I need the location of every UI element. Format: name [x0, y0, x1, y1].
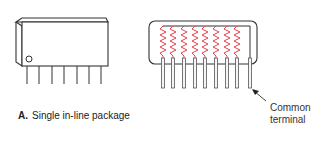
- resistor-pins: [162, 58, 252, 88]
- sip-package-exterior: [16, 18, 108, 66]
- caption-text: Single in-line package: [32, 110, 130, 121]
- figure-caption: A.Single in-line package: [18, 110, 130, 121]
- callout-arrow-icon: [252, 89, 266, 101]
- diagram-canvas: [0, 0, 327, 158]
- common-terminal-label: Common terminal: [270, 102, 311, 126]
- panel-label: A.: [18, 110, 28, 121]
- callout-line-2: terminal: [270, 114, 311, 126]
- callout-line-1: Common: [270, 102, 311, 114]
- sip-pins: [27, 66, 101, 84]
